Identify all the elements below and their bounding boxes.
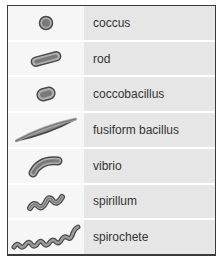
table-row: fusiform bacillus bbox=[8, 113, 215, 149]
icon-cell bbox=[8, 42, 84, 76]
table-row: spirochete bbox=[8, 220, 215, 254]
icon-cell bbox=[8, 149, 84, 183]
row-label: spirillum bbox=[84, 185, 215, 219]
table-row: spirillum bbox=[8, 185, 215, 221]
row-label: coccobacillus bbox=[84, 77, 215, 111]
vibrio-icon bbox=[28, 154, 64, 178]
table-row: coccobacillus bbox=[8, 77, 215, 113]
row-label: spirochete bbox=[84, 220, 215, 254]
rod-icon bbox=[28, 49, 64, 69]
bacteria-shapes-table: coccus rod coccobacillus bbox=[7, 5, 216, 256]
table-row: rod bbox=[8, 42, 215, 78]
table-row: coccus bbox=[8, 6, 215, 42]
spirillum-icon bbox=[26, 189, 66, 213]
table-row: vibrio bbox=[8, 149, 215, 185]
row-label: coccus bbox=[84, 6, 215, 40]
row-label: vibrio bbox=[84, 149, 215, 183]
icon-cell bbox=[8, 113, 84, 147]
icon-cell bbox=[8, 220, 84, 254]
fusiform-bacillus-icon bbox=[13, 116, 79, 144]
icon-cell bbox=[8, 6, 84, 40]
icon-cell bbox=[8, 77, 84, 111]
spirochete-icon bbox=[11, 223, 81, 251]
icon-cell bbox=[8, 185, 84, 219]
row-label: fusiform bacillus bbox=[84, 113, 215, 147]
coccus-icon bbox=[36, 13, 56, 33]
row-label: rod bbox=[84, 42, 215, 76]
coccobacillus-icon bbox=[34, 84, 58, 104]
